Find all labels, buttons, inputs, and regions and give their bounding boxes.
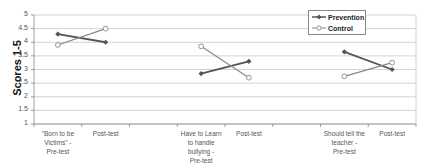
y-tick-label: 4 bbox=[4, 37, 28, 44]
y-tick-label: 4.5 bbox=[4, 24, 28, 31]
legend-label-control: Control bbox=[328, 25, 353, 32]
open-circle-marker-icon bbox=[312, 24, 326, 32]
data-point bbox=[390, 67, 395, 72]
data-point bbox=[55, 43, 60, 48]
data-point bbox=[103, 26, 108, 31]
data-point bbox=[199, 71, 204, 76]
data-point bbox=[246, 59, 251, 64]
y-tick-label: 3 bbox=[4, 65, 28, 72]
line-chart: Scores 1-5 54.543.532.521.51 "Born to be… bbox=[0, 0, 427, 168]
data-point bbox=[199, 44, 204, 49]
data-point bbox=[390, 60, 395, 65]
filled-diamond-marker-icon bbox=[312, 13, 326, 21]
x-tick-label: Post-test bbox=[368, 129, 416, 138]
y-tick-label: 3.5 bbox=[4, 51, 28, 58]
y-tick-label: 1 bbox=[4, 119, 28, 126]
legend-item-control: Control bbox=[312, 23, 353, 33]
y-tick-label: 2.5 bbox=[4, 78, 28, 85]
data-point bbox=[342, 49, 347, 54]
data-point bbox=[342, 74, 347, 79]
data-point bbox=[103, 40, 108, 45]
y-tick-label: 5 bbox=[4, 10, 28, 17]
data-point bbox=[55, 31, 60, 36]
x-tick-label: Post-test bbox=[82, 129, 130, 138]
legend: Prevention Control bbox=[308, 10, 366, 35]
series-line-prevention bbox=[201, 61, 249, 73]
x-tick-label: Should tell theteacher -Pre-test bbox=[320, 129, 368, 156]
series-line-control bbox=[201, 46, 249, 77]
x-tick-label: Have to Learnto handlebullying -Pre-test bbox=[177, 129, 225, 165]
x-tick-label: Post-test bbox=[225, 129, 273, 138]
data-point bbox=[246, 75, 251, 80]
legend-item-prevention: Prevention bbox=[312, 12, 364, 22]
x-tick-label: "Born to beVictims" -Pre-test bbox=[34, 129, 82, 156]
legend-label-prevention: Prevention bbox=[328, 14, 364, 21]
y-tick-label: 1.5 bbox=[4, 105, 28, 112]
y-tick-label: 2 bbox=[4, 92, 28, 99]
series-line-prevention bbox=[344, 52, 392, 70]
series-line-prevention bbox=[58, 34, 106, 42]
